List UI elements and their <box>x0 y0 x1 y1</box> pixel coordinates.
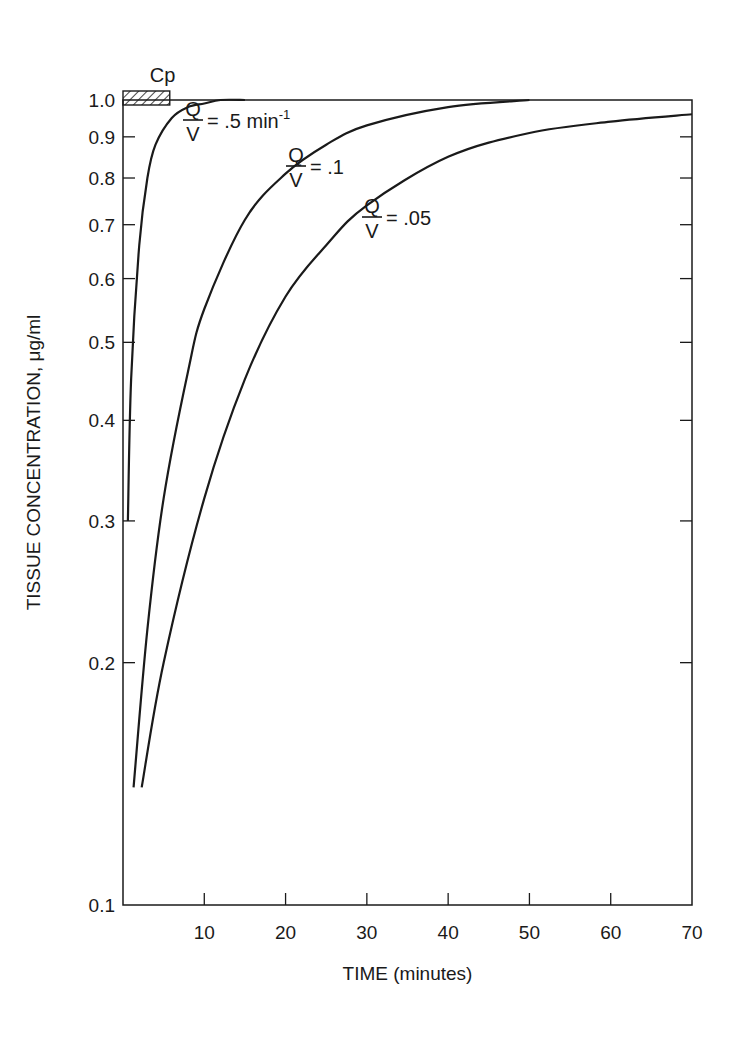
svg-text:Q: Q <box>185 98 201 120</box>
series-label-3: QV= .05 <box>362 195 431 242</box>
svg-text:V: V <box>365 220 379 242</box>
y-tick-label: 0.6 <box>89 269 115 290</box>
curve-series-2 <box>134 100 530 787</box>
y-tick-label: 0.4 <box>89 410 116 431</box>
y-tick-label: 0.8 <box>89 168 115 189</box>
x-tick-label: 60 <box>600 922 621 943</box>
y-tick-label: 0.9 <box>89 127 115 148</box>
y-tick-label: 0.3 <box>89 511 115 532</box>
series-label-1: QV= .5 min-1 <box>183 98 290 145</box>
svg-text:Q: Q <box>364 195 380 217</box>
y-tick-label: 0.1 <box>89 895 115 916</box>
svg-text:Q: Q <box>288 144 304 166</box>
svg-text:= .05: = .05 <box>386 207 431 229</box>
cp-plasma-box <box>123 91 170 105</box>
svg-text:V: V <box>186 123 200 145</box>
chart: 0.10.20.30.40.50.60.70.80.91.01020304050… <box>0 0 733 1042</box>
y-axis-title: TISSUE CONCENTRATION, μg/ml <box>23 315 44 611</box>
x-tick-label: 30 <box>356 922 377 943</box>
x-tick-label: 50 <box>519 922 540 943</box>
curve-series-1 <box>128 100 245 521</box>
x-tick-label: 20 <box>275 922 296 943</box>
x-tick-label: 10 <box>194 922 215 943</box>
svg-text:= .5 min-1: = .5 min-1 <box>207 107 290 132</box>
svg-text:= .1: = .1 <box>310 156 344 178</box>
x-tick-label: 40 <box>438 922 459 943</box>
svg-text:V: V <box>289 169 303 191</box>
y-tick-label: 0.2 <box>89 653 115 674</box>
cp-label: Cp <box>150 64 176 86</box>
y-tick-label: 1.0 <box>89 90 115 111</box>
y-tick-label: 0.7 <box>89 215 115 236</box>
x-axis-title: TIME (minutes) <box>343 963 473 984</box>
x-tick-label: 70 <box>681 922 702 943</box>
y-tick-label: 0.5 <box>89 332 115 353</box>
